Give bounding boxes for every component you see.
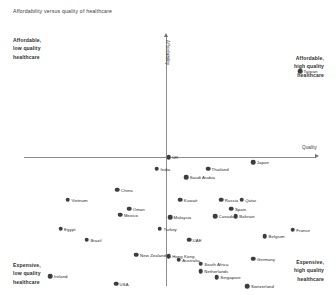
quadrant-label-bottom-right: Expensive,high qualityhealthcare <box>294 258 324 283</box>
data-point-label: Ireland <box>54 274 68 279</box>
data-point-marker[interactable] <box>155 166 160 171</box>
data-point-marker[interactable] <box>239 197 244 202</box>
data-point-label: Canada <box>219 214 235 219</box>
data-point-marker[interactable] <box>213 214 218 219</box>
data-point-marker[interactable] <box>48 274 53 279</box>
y-axis-arrow-icon <box>164 33 168 37</box>
data-point-label: India <box>160 166 170 171</box>
data-point-label: Malaysia <box>174 215 192 220</box>
data-point-label: Brazil <box>90 237 101 242</box>
data-point-marker[interactable] <box>118 212 123 217</box>
quadrant-label-bottom-left: Expensive,low qualityhealthcare <box>13 261 41 286</box>
data-point-label: China <box>121 187 133 192</box>
data-point-label: Thailand <box>212 166 229 171</box>
data-point-label: UAE <box>193 237 202 242</box>
data-point-marker[interactable] <box>206 166 211 171</box>
data-point-label: Turkey <box>163 226 176 231</box>
data-point-marker[interactable] <box>187 237 192 242</box>
data-point-marker[interactable] <box>166 254 171 259</box>
data-point-marker[interactable] <box>168 215 173 220</box>
data-point-label: Germany <box>257 256 275 261</box>
data-point-label: South Africa <box>204 261 228 266</box>
data-point-marker[interactable] <box>198 261 203 266</box>
data-point-marker[interactable] <box>127 206 132 211</box>
data-point-marker[interactable] <box>229 206 234 211</box>
data-point-marker[interactable] <box>251 160 256 165</box>
data-point-marker[interactable] <box>166 155 171 160</box>
data-point-marker[interactable] <box>114 281 119 286</box>
data-point-label: Russia <box>225 197 239 202</box>
data-point-marker[interactable] <box>115 187 120 192</box>
data-point-marker[interactable] <box>84 237 89 242</box>
data-point-label: Japan <box>257 160 269 165</box>
data-point-label: Vietnam <box>71 197 87 202</box>
data-point-label: Oman <box>133 206 145 211</box>
scatter-chart: Affordability versus quality of healthca… <box>0 0 336 295</box>
data-point-label: Spain <box>235 206 246 211</box>
data-point-marker[interactable] <box>233 214 238 219</box>
data-point-label: USA <box>120 281 129 286</box>
data-point-label: Kuwait <box>184 197 197 202</box>
x-axis-label: Quality <box>302 145 317 150</box>
quadrant-label-top-left: Affordable,low qualityhealthcare <box>13 36 41 61</box>
data-point-marker[interactable] <box>184 175 189 180</box>
data-point-label: Saudi Arabia <box>190 175 215 180</box>
data-point-label: Qatar <box>245 197 256 202</box>
data-point-label: Australia <box>182 257 199 262</box>
data-point-marker[interactable] <box>157 226 162 231</box>
data-point-label: UK <box>172 155 178 160</box>
data-point-label: Mexico <box>124 212 138 217</box>
data-point-marker[interactable] <box>263 234 268 239</box>
data-point-marker[interactable] <box>214 275 219 280</box>
quadrant-label-top-right: Affordable,high qualityhealthcare <box>294 54 324 79</box>
y-axis-line <box>166 36 167 286</box>
data-point-label: New Zealand <box>140 252 166 257</box>
data-point-marker[interactable] <box>245 284 250 289</box>
data-point-marker[interactable] <box>134 252 139 257</box>
data-point-marker[interactable] <box>178 197 183 202</box>
data-point-label: Bahrain <box>239 214 254 219</box>
data-point-label: Singapore <box>220 275 240 280</box>
data-point-label: Taiwan <box>304 69 318 74</box>
x-axis-arrow-icon <box>315 154 319 158</box>
data-point-label: France <box>296 227 310 232</box>
data-point-label: Egypt <box>64 226 75 231</box>
data-point-marker[interactable] <box>58 226 63 231</box>
data-point-marker[interactable] <box>290 227 295 232</box>
data-point-marker[interactable] <box>219 197 224 202</box>
data-point-marker[interactable] <box>66 197 71 202</box>
data-point-label: Netherlands <box>204 269 228 274</box>
data-point-label: Switzerland <box>251 284 274 289</box>
data-point-label: Belgium <box>269 234 285 239</box>
y-axis-label: Affordability <box>165 40 170 65</box>
data-point-marker[interactable] <box>251 256 256 261</box>
data-point-marker[interactable] <box>298 69 303 74</box>
data-point-marker[interactable] <box>198 269 203 274</box>
data-point-marker[interactable] <box>176 257 181 262</box>
chart-title: Affordability versus quality of healthca… <box>13 8 112 14</box>
